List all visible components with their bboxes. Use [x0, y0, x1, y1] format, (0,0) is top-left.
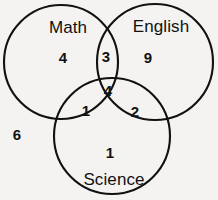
math-label: Math: [49, 19, 87, 36]
science-only-count: 1: [106, 145, 114, 160]
outside-all-count: 6: [13, 127, 21, 142]
math-english-only-count: 3: [102, 49, 110, 64]
all-three-count: 4: [104, 83, 112, 98]
english-only-count: 9: [144, 50, 152, 65]
math-science-only-count: 1: [82, 103, 90, 118]
venn-diagram: Math English Science 4 9 3 4 1 2 1 6: [0, 0, 218, 200]
english-label: English: [133, 18, 189, 35]
english-science-only-count: 2: [131, 104, 139, 119]
math-only-count: 4: [59, 50, 67, 65]
science-label: Science: [83, 171, 144, 188]
